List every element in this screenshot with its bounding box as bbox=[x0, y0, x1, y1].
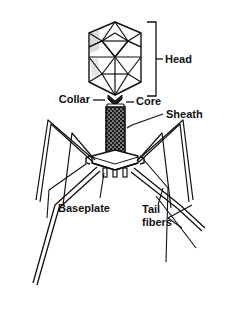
head-group bbox=[89, 22, 141, 95]
sheath-leader bbox=[127, 114, 163, 128]
baseplate-group bbox=[86, 150, 144, 177]
bacteriophage-diagram: Head Collar Core bbox=[0, 0, 237, 311]
head-bracket bbox=[147, 22, 163, 96]
tail-fiber-right-outer bbox=[139, 120, 193, 202]
label-tail-fibers-line2: fibers bbox=[142, 216, 172, 228]
label-sheath: Sheath bbox=[166, 108, 203, 120]
tail-fiber-right-middle bbox=[137, 133, 171, 208]
label-tail-fibers-line1: Tail bbox=[142, 203, 160, 215]
label-head: Head bbox=[165, 53, 192, 65]
baseplate-leader bbox=[100, 173, 104, 198]
tail-fiber-left-front bbox=[33, 167, 100, 285]
head-shading-left bbox=[90, 30, 99, 53]
label-core: Core bbox=[136, 95, 161, 107]
label-baseplate: Baseplate bbox=[58, 202, 110, 214]
phage-diagram-page: Head Collar Core bbox=[0, 0, 237, 311]
baseplate-top-face bbox=[92, 150, 138, 170]
label-collar: Collar bbox=[59, 93, 91, 105]
collar-group bbox=[107, 95, 124, 108]
